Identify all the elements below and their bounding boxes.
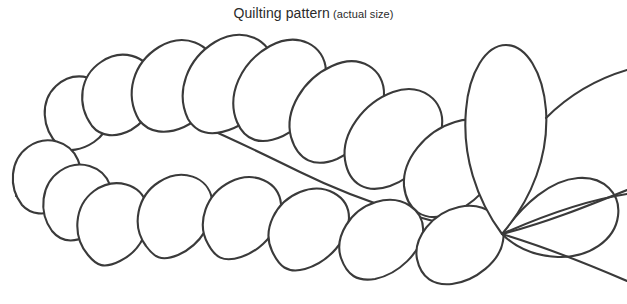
tail-curve-top bbox=[546, 70, 627, 118]
caption-title: Quilting pattern bbox=[233, 5, 330, 21]
quilting-pattern-page: Quilting pattern(actual size) bbox=[0, 0, 627, 304]
page-caption: Quilting pattern(actual size) bbox=[0, 5, 627, 21]
petal-lower-4 bbox=[138, 175, 213, 258]
caption-note: (actual size) bbox=[333, 8, 394, 20]
petal-lower-7 bbox=[339, 200, 423, 280]
feather-plume-illustration bbox=[0, 0, 627, 304]
